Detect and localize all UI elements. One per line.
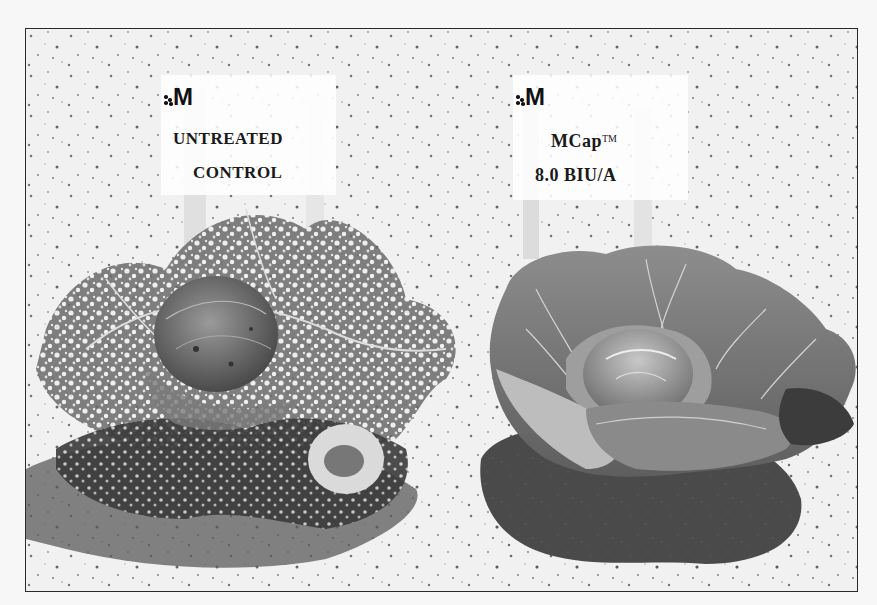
sign-label-line1: UNTREATED xyxy=(173,129,283,149)
trademark-symbol: TM xyxy=(602,133,617,144)
company-logo-icon: M xyxy=(173,83,193,111)
untreated-control-sign: M UNTREATED CONTROL xyxy=(161,75,336,195)
field-trial-photo: M UNTREATED CONTROL M MCapTM 8.0 BIU/A xyxy=(25,28,858,592)
sign-label-line2: CONTROL xyxy=(193,163,282,183)
application-rate-label: 8.0 BIU/A xyxy=(535,165,617,186)
product-name-label: MCapTM xyxy=(551,131,617,152)
photo-scene xyxy=(26,29,857,591)
mcap-treatment-sign: M MCapTM 8.0 BIU/A xyxy=(513,75,688,200)
company-logo-icon: M xyxy=(525,83,545,111)
